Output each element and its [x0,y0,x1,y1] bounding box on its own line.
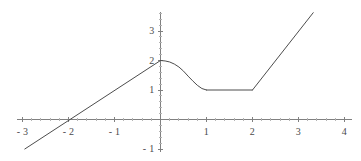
x-tick-label: 2 [250,127,255,137]
x-tick-label: - 2 [63,127,75,137]
y-tick-label: 2 [149,56,154,66]
series-segment-right-linear-ramp [253,13,314,90]
plot-figure: - 3- 2- 11234 321- 1 [0,0,361,161]
y-tick-label: 1 [149,85,154,95]
x-tick-label: - 3 [17,127,29,137]
plot-canvas [0,0,361,161]
y-tick-label: 3 [149,26,154,36]
series-segment-cosine-descent [161,61,207,91]
x-tick-label: 3 [296,127,301,137]
series-segment-left-linear-ramp [25,61,161,150]
x-tick-label: - 1 [109,127,121,137]
y-tick-label: - 1 [143,144,155,154]
x-tick-label: 1 [204,127,209,137]
x-tick-label: 4 [342,127,347,137]
